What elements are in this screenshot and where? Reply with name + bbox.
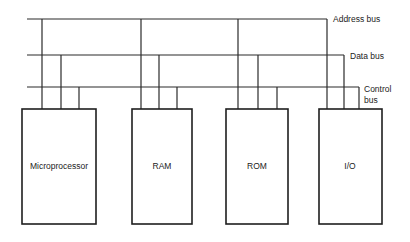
data-bus: Data bus (27, 51, 384, 61)
microprocessor-block: Microprocessor (22, 109, 96, 224)
address-bus-label: Address bus (333, 14, 380, 24)
io-block: I/O (319, 109, 382, 224)
ram-connections (141, 19, 177, 109)
microprocessor-connections (42, 19, 79, 109)
control-bus: Control bus (27, 84, 392, 105)
io-connections (327, 19, 359, 109)
ram-block: RAM (132, 109, 192, 224)
control-bus-label-line1: Control (364, 84, 392, 94)
ram-label: RAM (153, 161, 172, 171)
rom-label: ROM (247, 161, 267, 171)
io-label: I/O (344, 161, 356, 171)
control-bus-label-line2: bus (364, 95, 378, 105)
microprocessor-label: Microprocessor (30, 161, 88, 171)
rom-connections (238, 19, 277, 109)
bus-diagram: Address bus Data bus Control bus Microp (0, 0, 410, 242)
data-bus-label: Data bus (350, 51, 384, 61)
rom-block: ROM (226, 109, 288, 224)
